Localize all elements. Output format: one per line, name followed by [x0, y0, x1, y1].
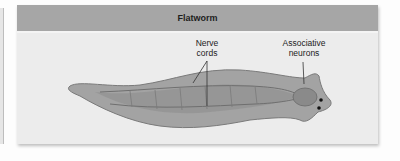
label-line: neurons — [272, 48, 336, 58]
flatworm-illustration — [0, 0, 400, 161]
label-line: Nerve — [189, 38, 225, 48]
nerve-cords-label: Nerve cords — [189, 38, 225, 58]
label-line: Associative — [272, 38, 336, 48]
eyespot-icon — [317, 106, 321, 110]
eyespot-icon — [319, 98, 323, 102]
associative-neurons-label: Associative neurons — [272, 38, 336, 58]
label-line: cords — [189, 48, 225, 58]
